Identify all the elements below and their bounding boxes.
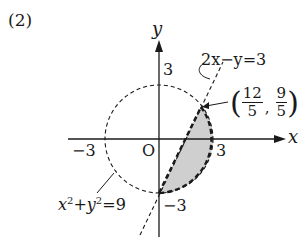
line-equation-text: 2x−y=3: [201, 50, 266, 69]
frac-x: 125: [242, 86, 263, 119]
problem-label: (2): [8, 12, 32, 29]
tick-y-pos: 3: [163, 62, 173, 78]
frac-y-den: 5: [276, 103, 288, 119]
tick-y-neg: −3: [163, 198, 187, 214]
x-axis-arrow-icon: [274, 135, 286, 143]
y-axis-label: y: [152, 20, 162, 38]
frac-x-den: 5: [242, 103, 263, 119]
comma: ,: [265, 99, 270, 117]
origin-label: O: [142, 143, 155, 159]
circle-eq-x: x: [58, 195, 67, 214]
intersection-pointer: [206, 102, 228, 106]
open-paren: (: [230, 85, 242, 120]
circle-eq-plus: +: [73, 195, 86, 214]
y-axis-arrow-icon: [155, 40, 163, 52]
diagram: (2) y x O −3 3 3 −3 2x−y=3 (125,95) x2+y…: [0, 0, 305, 237]
intersection-label: (125,95): [230, 86, 299, 119]
line-equation-label: 2x−y=3: [201, 52, 266, 68]
circle-eq-y: y: [87, 195, 96, 214]
circle-equation-label: x2+y2=9: [58, 196, 126, 213]
frac-x-num: 12: [242, 86, 263, 103]
tick-x-pos: 3: [216, 143, 226, 159]
circle-eq-rhs: =9: [102, 195, 126, 214]
x-axis-label: x: [288, 128, 298, 146]
frac-y-num: 9: [276, 86, 288, 103]
circle-label-leader: [97, 173, 114, 193]
close-paren: ): [287, 85, 299, 120]
frac-y: 95: [276, 86, 288, 119]
tick-x-neg: −3: [72, 143, 96, 159]
